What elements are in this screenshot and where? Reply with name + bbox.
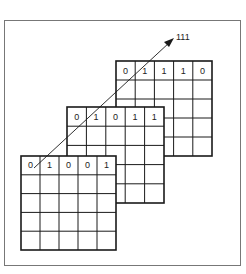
bit-cell: 0 bbox=[74, 112, 79, 122]
bit-cell: 1 bbox=[181, 66, 186, 76]
bit-cell: 1 bbox=[104, 160, 109, 170]
grid-front: 01001 bbox=[21, 156, 116, 250]
bit-cell: 1 bbox=[47, 160, 52, 170]
bit-cell: 1 bbox=[94, 112, 99, 122]
bit-cell: 0 bbox=[200, 66, 205, 76]
diagram-canvas: 01110 01011 01001 111 bbox=[0, 0, 246, 274]
bit-cell: 0 bbox=[113, 112, 118, 122]
bit-cell: 0 bbox=[66, 160, 71, 170]
bit-cell: 1 bbox=[152, 112, 157, 122]
bit-cell: 0 bbox=[85, 160, 90, 170]
bit-cell: 1 bbox=[132, 112, 137, 122]
bit-cell: 0 bbox=[123, 66, 128, 76]
bit-cell: 0 bbox=[28, 160, 33, 170]
arrow-label: 111 bbox=[176, 32, 190, 42]
bit-cell: 1 bbox=[161, 66, 166, 76]
